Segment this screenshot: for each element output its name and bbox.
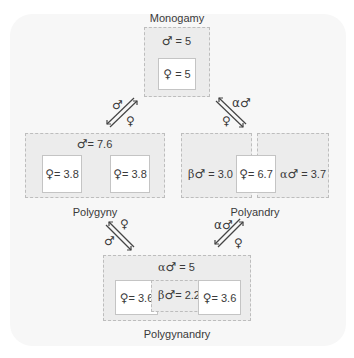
arrow-label-polyandry-polygynandry-upper: α♂ [214, 218, 233, 232]
arrow-label-polygyny-polygynandry-lower: ♂ [104, 234, 115, 248]
arrow-label-polygyny-polygynandry-upper: ♀ [120, 217, 129, 231]
arrow-label-mono-polyandry-upper: α♂ [232, 96, 251, 110]
arrow-label-mono-polygyny-upper: ♂ [112, 98, 123, 112]
transition-arrows [0, 0, 354, 358]
arrow-label-polyandry-polygynandry-lower: ♀ [234, 236, 243, 250]
arrow-label-mono-polygyny-lower: ♀ [126, 114, 135, 128]
arrow-label-mono-polyandry-lower: ♀ [222, 114, 231, 128]
